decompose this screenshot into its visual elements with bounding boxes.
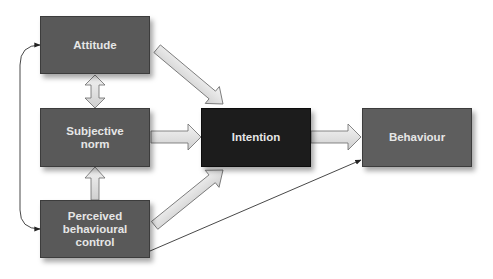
pbc-norm-up-arrow [85,167,105,200]
node-attitude: Attitude [40,16,150,74]
node-subjective-norm: Subjective norm [40,108,150,167]
pbc-intention-arrow [148,161,230,233]
pbc-behaviour-thin-arrow [150,160,361,251]
attitude-norm-double-arrow [85,75,105,108]
attitude-pbc-bracket-arrow [20,45,40,229]
node-pbc-line1: Perceived [68,210,122,223]
node-subjective-norm-line1: Subjective [66,125,124,138]
node-intention-label: Intention [232,131,281,144]
node-perceived-behavioural-control: Perceived behavioural control [40,200,150,258]
norm-intention-arrow [151,124,201,150]
intention-behaviour-arrow [311,124,361,150]
node-pbc-line3: control [76,236,115,249]
tpb-diagram: Attitude Subjective norm Perceived behav… [0,0,493,279]
node-subjective-norm-line2: norm [81,138,110,151]
node-attitude-label: Attitude [73,39,116,52]
node-behaviour: Behaviour [362,108,472,167]
node-intention: Intention [201,108,311,167]
node-behaviour-label: Behaviour [389,131,445,144]
node-pbc-line2: behavioural [63,223,128,236]
attitude-intention-arrow [150,40,230,112]
